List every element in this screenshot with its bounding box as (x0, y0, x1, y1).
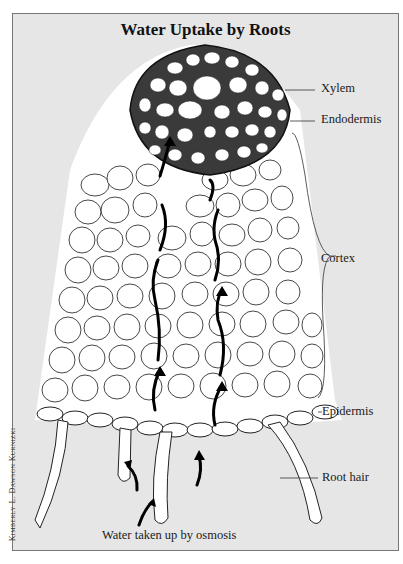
label-cortex: Cortex (321, 251, 355, 266)
caption-osmosis: Water taken up by osmosis (102, 528, 236, 543)
label-xylem: Xylem (321, 81, 355, 96)
label-root-hair: Root hair (322, 470, 369, 485)
label-endodermis: Endodermis (321, 112, 381, 127)
label-epidermis: Epidermis (322, 404, 373, 419)
illustrator-credit: Kimberly L. Dawson Kurnizki (8, 415, 17, 555)
